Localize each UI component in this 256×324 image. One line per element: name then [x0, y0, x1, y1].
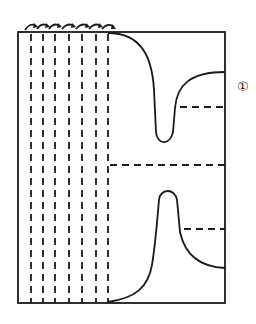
lower-cut-curve	[108, 191, 225, 302]
upper-cut-curve	[108, 33, 225, 142]
step-number-label: ①	[237, 80, 249, 93]
outer-frame	[18, 32, 225, 303]
vertical-fold-lines	[31, 34, 108, 303]
pattern-diagram	[0, 0, 256, 324]
